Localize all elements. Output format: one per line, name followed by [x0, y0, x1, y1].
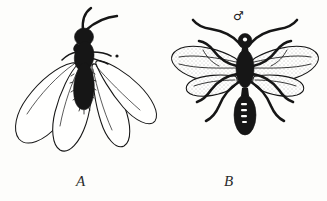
- figure-b-label: B: [224, 174, 234, 189]
- thorax: [236, 51, 254, 88]
- figure-b: [163, 0, 327, 170]
- figure-a: [0, 0, 164, 170]
- illustration-plate: ♂ A B: [0, 0, 327, 201]
- figure-a-label: A: [76, 174, 86, 189]
- figure-a-drawing: [0, 0, 164, 170]
- figure-b-drawing: [163, 0, 327, 170]
- ocellus: [243, 37, 247, 41]
- male-symbol-icon: ♂: [233, 10, 244, 22]
- leg-tip-dot: [115, 54, 118, 57]
- antenna: [83, 8, 117, 31]
